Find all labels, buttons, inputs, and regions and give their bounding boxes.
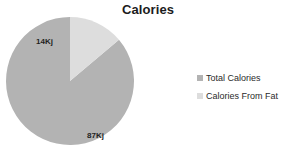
chart-legend: Total Calories Calories From Fat	[197, 71, 284, 107]
legend-item-label: Total Calories	[206, 73, 261, 83]
plot-area: 14Kj 87Kj	[0, 10, 160, 153]
legend-item-total-calories[interactable]: Total Calories	[197, 71, 284, 85]
data-label-total-calories: 87Kj	[87, 131, 104, 141]
pie-graphic	[0, 10, 160, 153]
square-marker-icon	[197, 75, 203, 81]
legend-item-calories-from-fat[interactable]: Calories From Fat	[197, 89, 284, 103]
data-label-calories-from-fat: 14Kj	[36, 37, 53, 47]
legend-item-label: Calories From Fat	[206, 91, 278, 101]
pie-chart: Calories 14Kj 87Kj Total Calories Calori…	[0, 0, 284, 153]
square-marker-icon	[197, 93, 203, 99]
